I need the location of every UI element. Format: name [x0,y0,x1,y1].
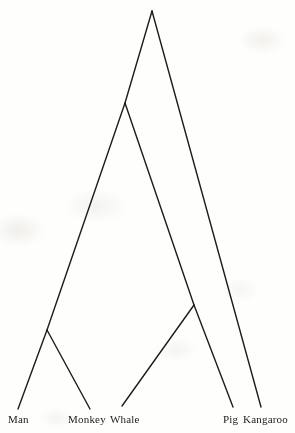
branch-primates-to-monkey [47,330,90,409]
branch-placental-to-cetartiodactyla [125,103,194,305]
branch-cetartiodactyla-to-pig [194,305,233,407]
tree-branches [0,0,295,433]
branch-root-to-kangaroo [152,11,261,407]
branch-primates-to-man [18,330,47,409]
branch-root-to-placental [125,11,152,103]
tip-label-kangaroo: Kangaroo [243,414,288,425]
phylogenetic-tree-figure: ManMonkeyWhalePigKangaroo [0,0,295,433]
tip-label-man: Man [8,414,29,425]
branch-cetartiodactyla-to-whale [122,305,194,406]
tip-label-whale: Whale [110,414,140,425]
branch-placental-to-primates [47,103,125,330]
tip-label-monkey: Monkey [68,414,106,425]
tip-label-pig: Pig [223,414,238,425]
